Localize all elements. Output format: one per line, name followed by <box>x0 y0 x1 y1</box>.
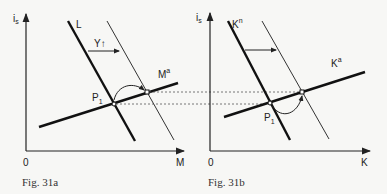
origin-label: 0 <box>23 157 29 168</box>
new-equilibrium-point <box>300 90 304 94</box>
shifted-demand-curve <box>107 21 174 140</box>
demand-curve-Kn <box>228 21 290 140</box>
caption-fig-31b: Fig. 31b <box>208 176 245 188</box>
equilibrium-point-p1 <box>268 101 272 105</box>
equilibrium-point-p1 <box>112 102 116 106</box>
supply-curve-label: Ka <box>331 56 342 69</box>
x-axis-label: M <box>176 157 184 168</box>
y-axis-label: is <box>196 12 202 24</box>
supply-curve-Ma <box>39 83 178 127</box>
origin-label: 0 <box>208 157 214 168</box>
figure-31b: is 0 K Kn Ka P1 <box>196 12 370 168</box>
supply-curve-label: Ma <box>158 67 170 80</box>
demand-curve-label: Kn <box>232 17 243 30</box>
shift-label: Y↑ <box>94 38 106 49</box>
caption-fig-31a: Fig. 31a <box>22 176 58 188</box>
figure-31a: is 0 M L Y↑ Ma P1 <box>13 13 184 168</box>
point-label: P1 <box>92 92 103 105</box>
new-equilibrium-point <box>145 90 149 94</box>
point-label: P1 <box>264 112 275 125</box>
demand-curve-label: L <box>76 19 82 30</box>
y-axis-label: is <box>13 13 19 25</box>
x-axis-label: K <box>361 157 368 168</box>
movement-arrow <box>272 96 302 114</box>
diagram-canvas: is 0 M L Y↑ Ma P1 is 0 K Kn <box>0 0 387 194</box>
